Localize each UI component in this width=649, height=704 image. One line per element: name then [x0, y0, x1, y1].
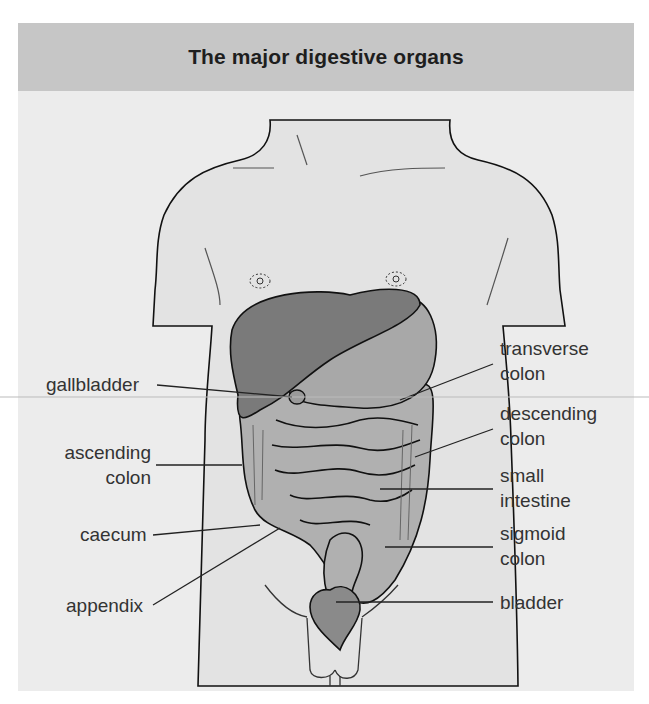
label-small-intestine-line2: intestine — [500, 488, 571, 513]
label-ascending-colon: ascending colon — [56, 440, 151, 490]
label-transverse-colon: transverse colon — [500, 336, 589, 386]
label-descending-colon-line2: colon — [500, 426, 597, 451]
label-sigmoid-colon: sigmoid colon — [500, 521, 565, 571]
label-descending-colon-line1: descending — [500, 401, 597, 426]
label-small-intestine: small intestine — [500, 463, 571, 513]
label-caecum: caecum — [80, 522, 147, 547]
label-gallbladder: gallbladder — [46, 372, 139, 397]
label-ascending-colon-line1: ascending — [56, 440, 151, 465]
label-bladder: bladder — [500, 590, 563, 615]
label-sigmoid-colon-line1: sigmoid — [500, 521, 565, 546]
label-transverse-colon-line1: transverse — [500, 336, 589, 361]
label-descending-colon: descending colon — [500, 401, 597, 451]
label-small-intestine-line1: small — [500, 463, 571, 488]
label-sigmoid-colon-line2: colon — [500, 546, 565, 571]
label-ascending-colon-line2: colon — [56, 465, 151, 490]
label-transverse-colon-line2: colon — [500, 361, 589, 386]
label-appendix: appendix — [66, 593, 143, 618]
